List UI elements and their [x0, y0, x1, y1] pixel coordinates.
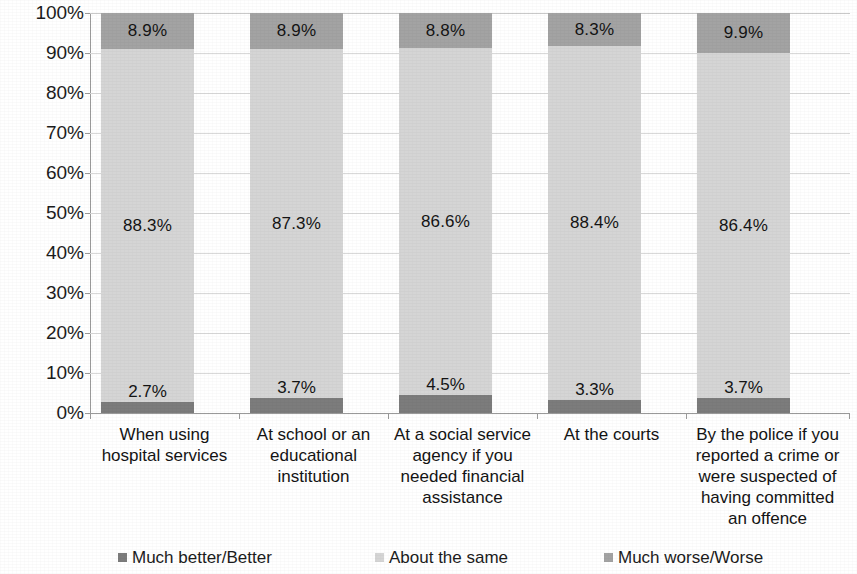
y-axis-tick [85, 53, 90, 54]
x-axis-tick [849, 413, 850, 419]
legend-swatch-icon [604, 553, 613, 562]
bar-value-label: 86.4% [719, 217, 768, 234]
y-axis-tick [85, 333, 90, 334]
x-axis-category-label: At school or an educational institution [239, 424, 388, 487]
bar-segment-about-same[interactable]: 88.3% [101, 49, 194, 402]
y-axis-tick [85, 13, 90, 14]
legend-item-much-worse[interactable]: Much worse/Worse [604, 548, 763, 567]
category-label-line: At the courts [537, 424, 686, 445]
bar-segment-much-better[interactable] [101, 402, 194, 413]
x-axis-tick [388, 413, 389, 419]
legend-swatch-icon [375, 553, 384, 562]
y-axis-labels: 100% 90% 80% 70% 60% 50% 40% 30% 20% 10%… [0, 13, 84, 413]
y-axis-tick-label: 100% [6, 3, 84, 22]
bar-segment-about-same[interactable]: 87.3% [250, 49, 343, 398]
y-axis-tick-label: 0% [6, 403, 84, 422]
bar-value-label: 8.8% [426, 22, 466, 39]
y-axis-tick-label: 90% [6, 43, 84, 62]
category-label-line: institution [239, 466, 388, 487]
bar-value-label: 4.5% [399, 376, 492, 393]
bar-segment-much-worse[interactable]: 8.3% [548, 13, 641, 46]
x-axis-line [90, 413, 850, 414]
bar-value-label: 88.4% [570, 214, 619, 231]
x-axis-category-label: At the courts [537, 424, 686, 445]
bar-group[interactable]: 8.9% 88.3% 2.7% [101, 13, 194, 413]
y-axis-tick-label: 60% [6, 163, 84, 182]
bar-value-label: 87.3% [272, 215, 321, 232]
category-label-line: hospital services [90, 445, 239, 466]
legend-item-much-better[interactable]: Much better/Better [118, 548, 272, 567]
category-label-line: having committed [684, 487, 851, 508]
category-label-line: an offence [684, 508, 851, 529]
x-axis-tick [90, 413, 91, 419]
x-axis-tick [239, 413, 240, 419]
bar-value-label: 3.7% [697, 379, 790, 396]
stacked-bar-chart: 100% 90% 80% 70% 60% 50% 40% 30% 20% 10%… [0, 0, 857, 574]
y-axis-tick-label: 30% [6, 283, 84, 302]
legend-swatch-icon [118, 553, 127, 562]
legend-label: Much worse/Worse [618, 548, 763, 567]
bar-segment-much-better[interactable] [697, 398, 790, 413]
x-axis-category-label: At a social service agency if you needed… [388, 424, 537, 508]
plot-area: 8.9% 88.3% 2.7% 8.9% 87.3% 3.7% 8.8% [90, 13, 850, 413]
y-axis-tick-label: 80% [6, 83, 84, 102]
x-axis-tick [686, 413, 687, 419]
category-label-line: When using [90, 424, 239, 445]
y-axis-tick [85, 373, 90, 374]
bar-group[interactable]: 8.8% 86.6% 4.5% [399, 13, 492, 413]
bar-group[interactable]: 8.3% 88.4% 3.3% [548, 13, 641, 413]
category-label-line: assistance [388, 487, 537, 508]
y-axis-tick-label: 10% [6, 363, 84, 382]
category-label-line: reported a crime or [684, 445, 851, 466]
category-label-line: educational [239, 445, 388, 466]
bar-segment-much-worse[interactable]: 8.9% [250, 13, 343, 49]
bar-value-label: 3.3% [548, 381, 641, 398]
bar-value-label: 9.9% [724, 24, 764, 41]
bar-value-label: 88.3% [123, 217, 172, 234]
bar-segment-much-better[interactable] [548, 400, 641, 413]
x-axis-category-label: By the police if you reported a crime or… [684, 424, 851, 529]
bar-segment-about-same[interactable]: 88.4% [548, 46, 641, 400]
y-axis-tick [85, 213, 90, 214]
bar-value-label: 8.9% [277, 22, 317, 39]
category-label-line: needed financial [388, 466, 537, 487]
bar-segment-much-worse[interactable]: 9.9% [697, 13, 790, 53]
bar-segment-about-same[interactable]: 86.4% [697, 53, 790, 399]
y-axis-tick [85, 133, 90, 134]
category-label-line: At school or an [239, 424, 388, 445]
y-axis-tick [85, 253, 90, 254]
x-axis-category-label: When using hospital services [90, 424, 239, 466]
x-axis-tick [537, 413, 538, 419]
y-axis-tick-label: 40% [6, 243, 84, 262]
bar-group[interactable]: 9.9% 86.4% 3.7% [697, 13, 790, 413]
legend-label: Much better/Better [132, 548, 272, 567]
bar-segment-much-better[interactable] [399, 395, 492, 413]
bar-group[interactable]: 8.9% 87.3% 3.7% [250, 13, 343, 413]
bar-segment-much-worse[interactable]: 8.9% [101, 13, 194, 49]
bar-segment-much-worse[interactable]: 8.8% [399, 13, 492, 48]
y-axis-tick [85, 173, 90, 174]
y-axis-tick [85, 293, 90, 294]
y-axis-tick-label: 50% [6, 203, 84, 222]
y-axis-tick-label: 20% [6, 323, 84, 342]
category-label-line: agency if you [388, 445, 537, 466]
category-label-line: By the police if you [684, 424, 851, 445]
bar-segment-much-better[interactable] [250, 398, 343, 413]
bar-value-label: 3.7% [250, 379, 343, 396]
bar-value-label: 86.6% [421, 213, 470, 230]
bar-segment-about-same[interactable]: 86.6% [399, 48, 492, 394]
legend-label: About the same [389, 548, 508, 567]
y-axis-tick [85, 93, 90, 94]
bar-value-label: 8.3% [575, 21, 615, 38]
legend-item-about-the-same[interactable]: About the same [375, 548, 508, 567]
y-axis-tick-label: 70% [6, 123, 84, 142]
category-label-line: were suspected of [684, 466, 851, 487]
category-label-line: At a social service [388, 424, 537, 445]
bar-value-label: 8.9% [128, 22, 168, 39]
chart-legend: Much better/Better About the same Much w… [0, 548, 857, 572]
bar-value-label: 2.7% [101, 383, 194, 400]
